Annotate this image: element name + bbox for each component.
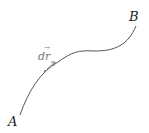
curve-path (20, 26, 136, 115)
arrow-icon (47, 62, 55, 69)
label-a: A (7, 114, 17, 129)
vector-arrow-icon: → (44, 44, 50, 52)
point-marker (44, 70, 46, 72)
label-b: B (128, 9, 139, 24)
path-diagram: B A dr → (0, 0, 149, 133)
